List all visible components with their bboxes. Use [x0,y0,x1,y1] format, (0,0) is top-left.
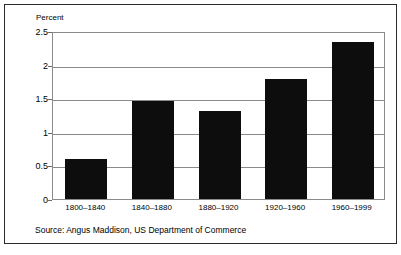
bar [132,101,174,199]
figure-bottom-border [4,243,397,244]
bar [332,42,374,199]
y-axis-tick-label: 2.5 [35,27,48,37]
plot-area [52,32,385,200]
y-axis-tick-label: 1.5 [35,94,48,104]
x-axis-tick-labels: 1800–18401840–18801880–19201920–19601960… [52,203,385,217]
bar [265,79,307,199]
x-axis-tick-label: 1840–1880 [132,203,172,212]
source-note: Source: Angus Maddison, US Department of… [35,225,246,235]
y-axis-title: Percent [36,13,64,22]
y-axis-tick-label: 0.5 [35,161,48,171]
y-axis-tick-mark [48,200,52,201]
bar [65,159,107,199]
figure-right-border [396,4,397,244]
figure-container: Percent 2.521.510.50 1800–18401840–18801… [0,0,401,255]
x-axis-tick-label: 1880–1920 [198,203,238,212]
figure-top-border [4,4,397,5]
x-axis-tick-label: 1960–1999 [332,203,372,212]
y-axis-tick-labels: 2.521.510.50 [20,32,48,200]
bar [199,111,241,199]
x-axis-tick-label: 1800–1840 [65,203,105,212]
x-axis-tick-label: 1920–1960 [265,203,305,212]
figure-left-border [4,4,5,244]
